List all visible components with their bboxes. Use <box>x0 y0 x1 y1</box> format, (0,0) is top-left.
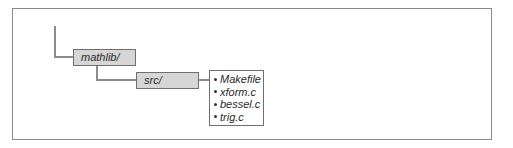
mathlib-src-connector-horizontal <box>96 79 137 81</box>
bullet-icon <box>214 90 217 93</box>
file-label-xform: xform.c <box>220 86 256 98</box>
directory-node-src: src/ <box>136 72 199 89</box>
file-item: xform.c <box>214 86 263 99</box>
root-connector-vertical <box>54 26 56 58</box>
directory-label-mathlib: mathlib/ <box>81 51 120 63</box>
file-item: trig.c <box>214 111 263 124</box>
file-list-box: Makefile xform.c bessel.c trig.c <box>209 70 264 126</box>
file-item: Makefile <box>214 73 263 86</box>
file-label-bessel: bessel.c <box>220 98 260 110</box>
directory-node-mathlib: mathlib/ <box>73 49 136 66</box>
file-label-makefile: Makefile <box>220 73 261 85</box>
file-item: bessel.c <box>214 98 263 111</box>
file-label-trig: trig.c <box>220 111 244 123</box>
bullet-icon <box>214 103 217 106</box>
bullet-icon <box>214 115 217 118</box>
directory-label-src: src/ <box>144 74 162 86</box>
root-connector-horizontal <box>54 56 74 58</box>
bullet-icon <box>214 78 217 81</box>
